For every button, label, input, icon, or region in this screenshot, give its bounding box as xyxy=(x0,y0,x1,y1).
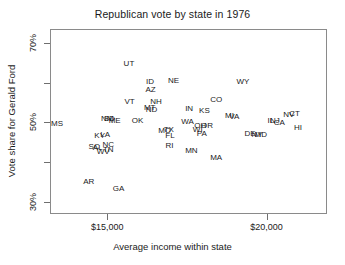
data-point-label: MD xyxy=(255,131,267,139)
data-point-label: CT xyxy=(289,110,300,118)
x-axis-tick-label: $15,000 xyxy=(91,222,124,232)
data-point-label: AR xyxy=(83,178,94,186)
data-point-label: IN xyxy=(185,105,193,113)
data-point-label: LA xyxy=(100,131,110,139)
data-point-label: HI xyxy=(294,124,302,132)
data-point-label: CO xyxy=(210,96,222,104)
data-point-label: AZ xyxy=(145,86,155,94)
data-point-label: NE xyxy=(168,77,179,85)
x-axis-tick xyxy=(267,214,268,220)
y-axis-title: Vote share for Gerald Ford xyxy=(6,65,17,177)
chart-title: Republican vote by state in 1976 xyxy=(0,8,345,20)
data-point-label: OR xyxy=(201,122,213,130)
x-axis-tick-label: $20,000 xyxy=(250,222,283,232)
data-point-label: WY xyxy=(236,78,249,86)
data-point-label: MS xyxy=(51,120,63,128)
y-axis-tick-label: 50% xyxy=(28,113,38,131)
data-point-label: OK xyxy=(132,117,144,125)
data-point-label: VA xyxy=(229,113,239,121)
data-point-label: MA xyxy=(210,154,222,162)
data-point-label: MN xyxy=(185,147,197,155)
data-point-label: RI xyxy=(165,142,173,150)
data-point-label: FL xyxy=(165,132,174,140)
data-point-label: NH xyxy=(150,98,162,106)
x-axis-tick xyxy=(107,214,108,220)
y-axis-tick-label: 30% xyxy=(28,193,38,211)
chart-figure: Republican vote by state in 1976 Vote sh… xyxy=(0,0,345,265)
data-point-label: GA xyxy=(113,185,125,193)
data-point-label: UT xyxy=(124,60,135,68)
data-point-label: VT xyxy=(124,98,134,106)
y-axis-tick-label: 70% xyxy=(28,34,38,52)
data-point-label: KS xyxy=(199,107,210,115)
x-axis-title: Average income within state xyxy=(0,241,345,252)
plot-area: MSARSCALKYLAWVTNNCNMSDMEGAUTVTOKIDAZNDMT… xyxy=(50,29,327,214)
data-point-label: ME xyxy=(109,117,121,125)
data-point-label: CA xyxy=(274,119,285,127)
data-point-label: PA xyxy=(197,130,207,138)
data-point-label: NC xyxy=(102,141,114,149)
